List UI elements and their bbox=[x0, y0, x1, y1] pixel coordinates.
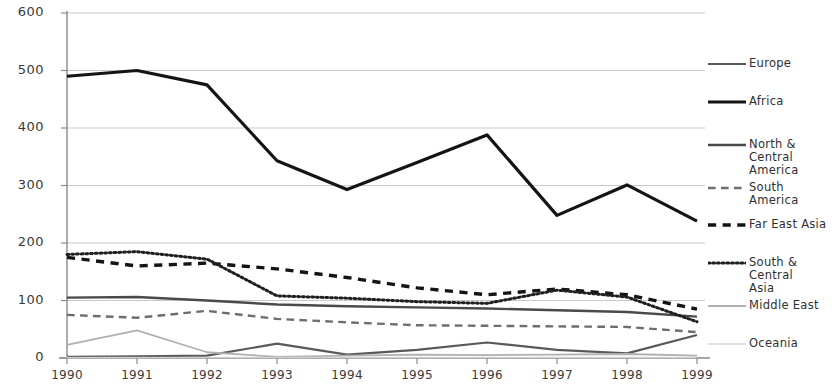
y-axis-label-0: 0 bbox=[2, 349, 44, 364]
legend-item-africa[interactable]: Africa bbox=[708, 95, 784, 109]
legend-item-south-central-asia[interactable]: South & Central Asia bbox=[708, 256, 836, 295]
x-axis-ticks bbox=[67, 358, 697, 364]
y-axis-ticks bbox=[61, 13, 67, 358]
legend-line-sample-icon bbox=[708, 337, 746, 351]
series-line-south-america bbox=[67, 311, 697, 332]
x-axis-label-1997: 1997 bbox=[531, 368, 583, 382]
x-axis-label-1994: 1994 bbox=[321, 368, 373, 382]
y-axis-label-200: 200 bbox=[2, 234, 44, 249]
legend-line-sample-icon bbox=[708, 95, 746, 109]
legend-line-sample-icon bbox=[708, 299, 746, 313]
y-axis-label-300: 300 bbox=[2, 177, 44, 192]
y-axis-label-600: 600 bbox=[2, 4, 44, 19]
x-axis-label-1999: 1999 bbox=[671, 368, 723, 382]
legend-line-sample-icon bbox=[708, 256, 746, 270]
legend-item-oceania[interactable]: Oceania bbox=[708, 337, 798, 351]
data-series-group bbox=[67, 71, 697, 358]
line-chart: 6005004003002001000 19901991199219931994… bbox=[0, 0, 838, 387]
legend-item-south-america[interactable]: South America bbox=[708, 181, 836, 207]
y-axis-label-400: 400 bbox=[2, 119, 44, 134]
x-axis-label-1996: 1996 bbox=[461, 368, 513, 382]
legend-item-label: Europe bbox=[749, 57, 791, 70]
legend-item-label: South & Central Asia bbox=[749, 256, 836, 295]
series-line-africa bbox=[67, 71, 697, 222]
legend-item-north-central-america[interactable]: North & Central America bbox=[708, 138, 836, 177]
x-axis-label-1991: 1991 bbox=[111, 368, 163, 382]
legend-item-middle-east[interactable]: Middle East bbox=[708, 299, 819, 313]
legend-item-label: North & Central America bbox=[749, 138, 836, 177]
y-axis-label-100: 100 bbox=[2, 292, 44, 307]
legend-item-label: Africa bbox=[749, 95, 784, 108]
x-axis-label-1995: 1995 bbox=[391, 368, 443, 382]
legend-line-sample-icon bbox=[708, 57, 746, 71]
x-axis-label-1992: 1992 bbox=[181, 368, 233, 382]
y-axis-label-500: 500 bbox=[2, 62, 44, 77]
legend-item-europe[interactable]: Europe bbox=[708, 57, 791, 71]
legend-line-sample-icon bbox=[708, 218, 746, 232]
x-axis-label-1993: 1993 bbox=[251, 368, 303, 382]
x-axis-label-1990: 1990 bbox=[41, 368, 93, 382]
legend-item-label: South America bbox=[749, 181, 836, 207]
legend-line-sample-icon bbox=[708, 138, 746, 152]
legend-item-far-east-asia[interactable]: Far East Asia bbox=[708, 218, 826, 232]
legend-item-label: Far East Asia bbox=[749, 218, 826, 231]
x-axis-label-1998: 1998 bbox=[601, 368, 653, 382]
legend-item-label: Oceania bbox=[749, 337, 798, 350]
legend-line-sample-icon bbox=[708, 181, 746, 195]
legend-item-label: Middle East bbox=[749, 299, 819, 312]
